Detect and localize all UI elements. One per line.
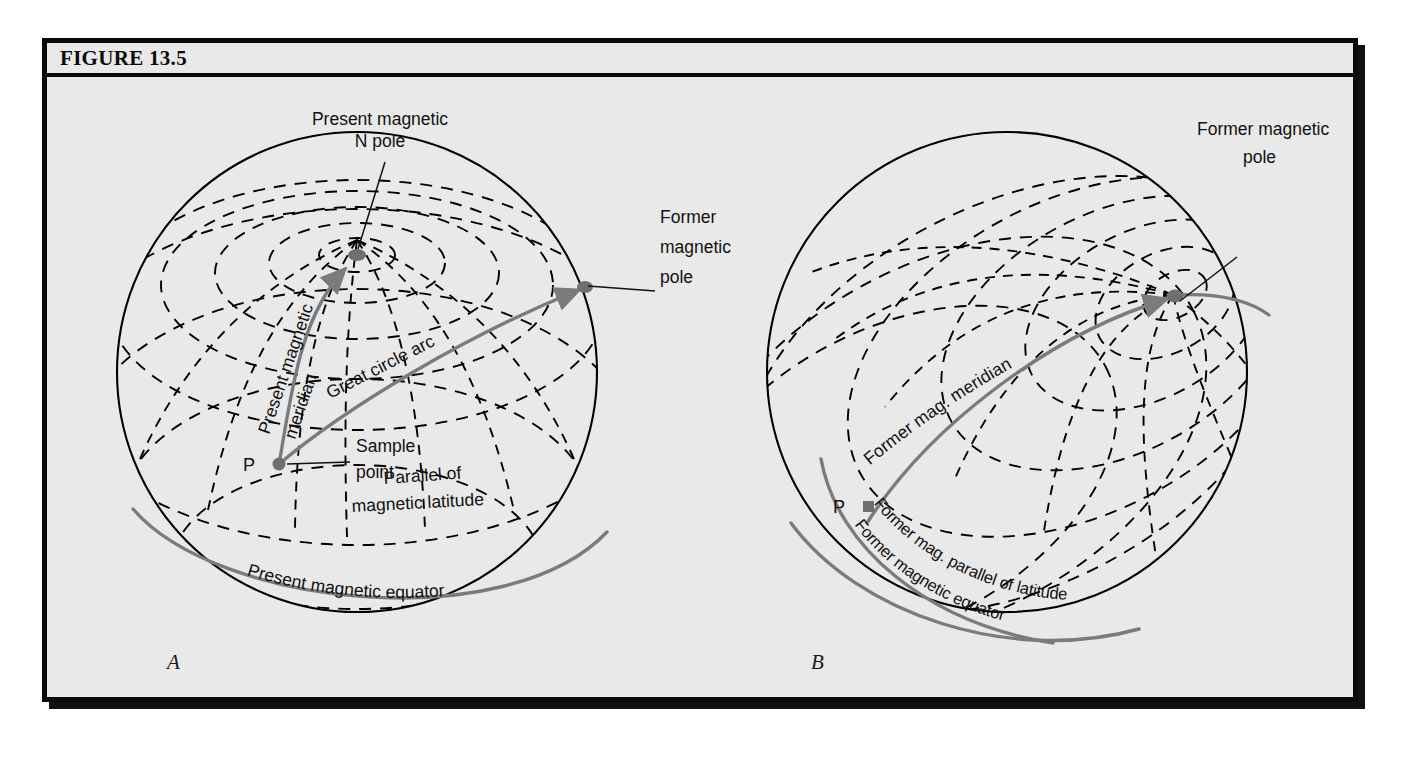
point-p-label-b: P: [833, 497, 845, 517]
figure-page: FIGURE 13.5: [0, 0, 1422, 759]
parallel-of-magnetic-latitude-label-line2: magnetic latitude: [351, 489, 484, 516]
latitude-parallel: [269, 223, 445, 303]
present-magnetic-pole-label-line2: N pole: [355, 131, 406, 151]
meridian-line: [125, 240, 357, 497]
former-magnetic-pole-label-a-line2: magnetic: [660, 237, 731, 257]
former-magnetic-pole-marker-a: [577, 281, 593, 293]
panel-a-letter: A: [165, 650, 180, 674]
latitude-parallel: [663, 86, 1353, 703]
parallel-of-magnetic-latitude-label-line1: Parallel of: [383, 463, 462, 488]
present-magnetic-pole-marker: [348, 249, 366, 261]
meridian-line: [1043, 295, 1173, 537]
meridian-line: [953, 295, 1173, 483]
figure-caption-label: FIGURE 13.5: [47, 46, 187, 71]
figure-caption-bar: FIGURE 13.5: [47, 43, 1353, 77]
latitude-parallel: [109, 180, 605, 430]
figure-body: Present magnetic N pole Former magnetic …: [47, 77, 1353, 703]
figure-panel: FIGURE 13.5: [42, 38, 1358, 702]
sample-point-leader-line: [287, 462, 350, 464]
great-circle-arc-curve: [279, 290, 579, 464]
former-pole-leader-line-a: [588, 286, 655, 291]
former-magnetic-pole-label-a-line3: pole: [660, 267, 693, 287]
latitude-parallel: [161, 191, 553, 379]
sphere-diagram-b: Former magnetic pole Former mag. meridia…: [619, 86, 1353, 703]
figure-drawing: Present magnetic N pole Former magnetic …: [47, 77, 1353, 703]
sample-point-label-line1: Sample: [356, 436, 415, 456]
point-p-label-a: P: [243, 455, 255, 475]
former-magnetic-equator-curve: [791, 523, 1139, 641]
sphere-diagram-a: Present magnetic N pole Former magnetic …: [57, 109, 731, 674]
present-magnetic-equator-label: Present magnetic equator: [245, 560, 445, 602]
sample-point-marker-a: [273, 458, 286, 471]
meridian-line: [809, 247, 1173, 295]
panel-b-letter: B: [811, 650, 824, 674]
former-magnetic-pole-label-a-line1: Former: [660, 207, 717, 227]
meridian-line: [885, 292, 1173, 407]
meridian-line: [1173, 295, 1261, 527]
former-magnetic-pole-label-b-line2: pole: [1243, 147, 1276, 167]
present-magnetic-pole-label-line1: Present magnetic: [312, 109, 448, 129]
present-pole-leader-line: [358, 162, 385, 249]
latitude-parallel: [215, 207, 499, 339]
former-magnetic-pole-label-b-line1: Former magnetic: [1197, 119, 1330, 139]
